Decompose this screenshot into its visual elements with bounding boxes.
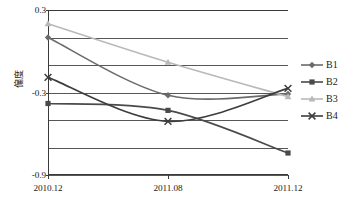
y-tick-label: -0.3 — [32, 87, 46, 97]
legend-item-B2[interactable]: B2 — [300, 73, 347, 90]
data-point-diamond — [165, 92, 171, 98]
data-point-square — [309, 79, 314, 84]
legend-marker-diamond-icon — [300, 59, 324, 71]
legend-label: B1 — [324, 60, 338, 70]
x-tick-mark — [48, 175, 49, 179]
legend-item-B3[interactable]: B3 — [300, 90, 347, 107]
y-tick-label: -0.9 — [32, 170, 46, 180]
legend-label: B2 — [324, 77, 338, 87]
legend-item-B4[interactable]: B4 — [300, 107, 347, 124]
x-tick-label: 2011.12 — [274, 183, 303, 193]
series-B2 — [45, 101, 290, 156]
series-B3 — [45, 20, 292, 99]
data-point-square — [165, 108, 170, 113]
x-tick-mark — [288, 175, 289, 179]
x-tick-label: 2010.12 — [33, 183, 62, 193]
legend-label: B3 — [324, 94, 338, 104]
data-point-square — [45, 101, 50, 106]
series-B4 — [45, 74, 292, 125]
series-B1 — [45, 34, 291, 99]
data-point-square — [285, 150, 290, 155]
x-tick-mark — [168, 175, 169, 179]
legend-marker-cross-icon — [300, 110, 324, 122]
legend-item-B1[interactable]: B1 — [300, 56, 347, 73]
series-layer — [48, 10, 288, 175]
legend-label: B4 — [324, 111, 338, 121]
x-tick-label: 2011.08 — [154, 183, 183, 193]
data-point-diamond — [309, 61, 315, 67]
legend-marker-square-icon — [300, 76, 324, 88]
legend: B1B2B3B4 — [300, 56, 347, 124]
y-tick-label: 0.3 — [35, 5, 46, 15]
y-axis-tick-labels: 0.3-0.3-0.9 — [0, 10, 46, 175]
legend-marker-triangle-icon — [300, 93, 324, 105]
chart-container: 偏度 0.3-0.3-0.9 2010.122011.082011.12 B1B… — [0, 0, 347, 200]
x-axis-tick-labels: 2010.122011.082011.12 — [48, 175, 288, 199]
